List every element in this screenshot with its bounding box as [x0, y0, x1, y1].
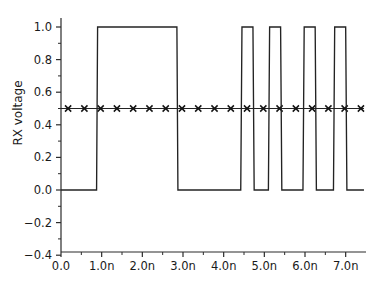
x-tick-label: 0.0 [52, 259, 70, 273]
x-tick-label: 4.0n [211, 259, 237, 273]
y-tick-label: −0.2 [24, 216, 52, 230]
x-tick-label: 6.0n [292, 259, 318, 273]
rx-voltage-waveform-chart: 1.00.80.60.40.20.0−0.2−0.40.01.0n2.0n3.0… [0, 0, 374, 285]
x-tick-label: 7.0n [333, 259, 359, 273]
y-tick-label: 0.8 [34, 53, 52, 67]
chart-figure: 1.00.80.60.40.20.0−0.2−0.40.01.0n2.0n3.0… [0, 0, 374, 285]
y-tick-label: −0.4 [24, 248, 52, 262]
y-tick-label: 0.0 [34, 183, 52, 197]
x-tick-label: 5.0n [252, 259, 278, 273]
y-axis-title: RX voltage [11, 80, 25, 145]
y-tick-label: 0.2 [34, 150, 52, 164]
x-tick-label: 1.0n [89, 259, 115, 273]
y-tick-label: 1.0 [34, 20, 52, 34]
x-tick-label: 2.0n [130, 259, 156, 273]
y-tick-label: 0.6 [34, 85, 52, 99]
x-tick-label: 3.0n [170, 259, 196, 273]
y-tick-label: 0.4 [34, 118, 52, 132]
